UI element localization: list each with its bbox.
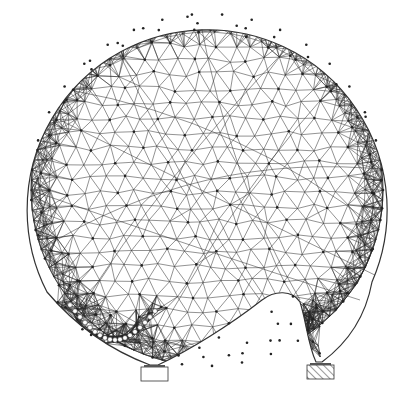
right-support <box>307 365 334 379</box>
left-support <box>141 367 168 381</box>
truss-mesh <box>30 14 390 366</box>
dome-truss-drawing <box>0 0 414 406</box>
dome-truss-svg <box>0 0 414 406</box>
supports <box>141 363 334 381</box>
